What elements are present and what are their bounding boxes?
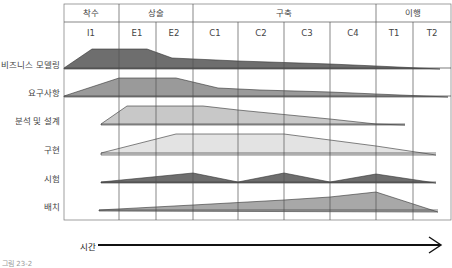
iteration-e2: E2 xyxy=(169,28,180,38)
discipline-label-deployment: 배치 xyxy=(44,200,60,212)
iteration-e1: E1 xyxy=(132,28,143,38)
phase-construction: 구축 xyxy=(276,8,292,18)
shape-implementation xyxy=(101,134,436,155)
discipline-label-implementation: 구현 xyxy=(44,143,60,155)
iteration-c1: C1 xyxy=(209,28,220,38)
discipline-label-business-modeling: 비즈니스 모델링 xyxy=(1,58,60,70)
discipline-label-analysis-design: 분석 및 설계 xyxy=(15,114,60,126)
discipline-label-test: 시험 xyxy=(44,172,60,184)
shape-analysis-design xyxy=(101,106,405,125)
iteration-t1: T1 xyxy=(388,28,400,38)
shape-deployment xyxy=(99,192,438,212)
phase-transition: 이행 xyxy=(405,8,421,18)
iteration-c2: C2 xyxy=(255,28,266,38)
discipline-shapes xyxy=(64,49,448,212)
phase-inception: 착수 xyxy=(83,8,99,18)
iteration-t2: T2 xyxy=(426,28,438,38)
phase-headers: 착수 상술 구축 이행 xyxy=(83,8,421,18)
time-arrow xyxy=(98,237,441,253)
iteration-headers: I1 E1 E2 C1 C2 C3 C4 T1 T2 xyxy=(87,28,437,38)
shape-requirements xyxy=(64,78,448,97)
phase-elaboration: 상술 xyxy=(148,8,164,18)
iteration-c3: C3 xyxy=(301,28,312,38)
figure-caption: 그림 23-2 xyxy=(2,258,32,268)
time-axis-label: 시간 xyxy=(80,240,96,252)
iteration-i1: I1 xyxy=(87,28,95,38)
shape-business-modeling xyxy=(64,49,440,69)
shape-test xyxy=(101,173,436,183)
discipline-label-requirements: 요구사항 xyxy=(28,86,60,98)
iteration-c4: C4 xyxy=(347,28,358,38)
